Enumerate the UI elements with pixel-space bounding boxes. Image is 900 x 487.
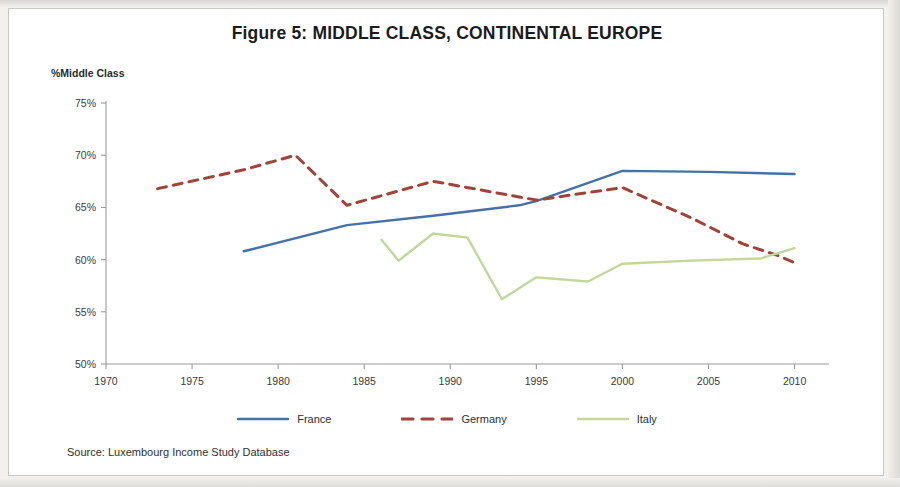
y-tick-label: 65% — [75, 201, 96, 213]
series-line-italy — [381, 234, 794, 300]
x-tick-label: 1975 — [180, 375, 204, 387]
x-tick-label: 1990 — [439, 375, 463, 387]
x-tick-label: 1980 — [266, 375, 290, 387]
source-note: Source: Luxembourg Income Study Database — [67, 446, 290, 458]
page-edge-bottom — [0, 478, 900, 487]
legend-label: Germany — [461, 413, 506, 425]
legend-swatch-italy-icon — [577, 413, 629, 425]
x-tick-label: 1985 — [353, 375, 377, 387]
legend-swatch-germany-icon — [401, 413, 453, 425]
x-tick-label: 2000 — [611, 375, 635, 387]
legend-item-italy[interactable]: Italy — [577, 413, 657, 425]
series-line-france — [244, 171, 795, 251]
y-tick-label: 50% — [75, 358, 96, 370]
x-tick-label: 1970 — [94, 375, 118, 387]
legend-label: France — [297, 413, 331, 425]
axes — [106, 101, 829, 364]
y-tick-label: 75% — [75, 97, 96, 109]
legend-item-france[interactable]: France — [237, 413, 331, 425]
y-tick-label: 70% — [75, 149, 96, 161]
legend-item-germany[interactable]: Germany — [401, 413, 506, 425]
page-edge-right — [888, 0, 900, 487]
x-tick-label: 1995 — [525, 375, 549, 387]
plot-area: 50%55%60%65%70%75% 197019751980198519901… — [9, 9, 884, 476]
legend-label: Italy — [637, 413, 657, 425]
legend-swatch-france-icon — [237, 413, 289, 425]
y-tick-label: 60% — [75, 254, 96, 266]
chart-legend: FranceGermanyItaly — [9, 413, 884, 425]
scanned-page-background: Figure 5: MIDDLE CLASS, CONTINENTAL EURO… — [0, 0, 900, 487]
x-tick-label: 2005 — [697, 375, 721, 387]
x-axis-ticks: 197019751980198519901995200020052010 — [94, 364, 806, 387]
x-tick-label: 2010 — [783, 375, 807, 387]
y-axis-ticks: 50%55%60%65%70%75% — [75, 97, 106, 370]
page-edge-top — [0, 0, 900, 7]
line-chart-svg: 50%55%60%65%70%75% 197019751980198519901… — [9, 9, 884, 409]
figure-container: Figure 5: MIDDLE CLASS, CONTINENTAL EURO… — [8, 8, 884, 476]
y-tick-label: 55% — [75, 306, 96, 318]
data-series — [158, 155, 795, 299]
